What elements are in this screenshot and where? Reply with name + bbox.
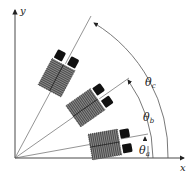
label-theta-c: θc [145, 76, 156, 90]
label-theta-b: θb [143, 111, 155, 125]
vehicle-theta-a [88, 127, 133, 160]
vehicle-theta-b [66, 82, 114, 127]
angle-labels: θc θb θa [139, 76, 156, 158]
tracked-vehicle-angle-diagram: x y θc θb θa [0, 0, 196, 173]
y-axis-label: y [19, 5, 26, 16]
vehicle-theta-c [38, 49, 80, 97]
x-axis-label: x [180, 162, 186, 173]
